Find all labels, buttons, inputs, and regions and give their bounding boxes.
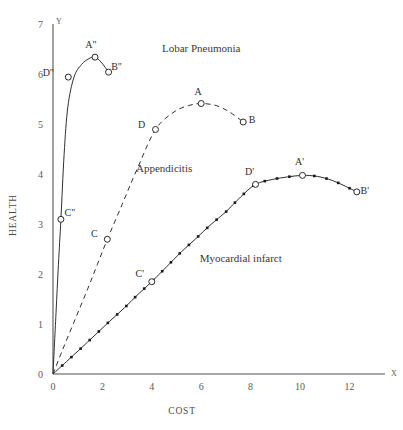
data-point-label: D bbox=[138, 119, 145, 130]
curve-tick-dot bbox=[243, 193, 246, 196]
curve-tick-dot bbox=[170, 261, 173, 264]
data-point-label: B' bbox=[361, 185, 370, 196]
x-tick-label: 12 bbox=[344, 381, 354, 392]
data-point-marker bbox=[104, 236, 110, 242]
series-label-myocardial-infarct: Myocardial infarct bbox=[200, 252, 282, 264]
y-axis-title: HEALTH bbox=[8, 194, 18, 236]
y-tick-label: 4 bbox=[38, 169, 43, 180]
data-point-marker bbox=[153, 126, 159, 132]
data-point-markers bbox=[58, 54, 360, 367]
curve-tick-dot bbox=[325, 177, 328, 180]
data-point-label: C bbox=[91, 228, 98, 239]
curve-tick-dot bbox=[161, 270, 164, 273]
curve-tick-dot bbox=[348, 187, 351, 190]
data-point-label: D" bbox=[43, 67, 54, 78]
curve-tick-dot bbox=[70, 356, 73, 359]
data-point-label: A" bbox=[85, 39, 96, 50]
curve-tick-dot bbox=[313, 175, 316, 178]
x-tick-label: 10 bbox=[295, 381, 305, 392]
curve-tick-dot bbox=[337, 182, 340, 185]
x-axis-cap-label: X bbox=[391, 369, 397, 378]
data-point-label: A' bbox=[295, 156, 304, 167]
curve-tick-dot bbox=[234, 201, 237, 204]
curve-tick-dot bbox=[225, 210, 228, 213]
data-point-marker bbox=[198, 101, 204, 107]
health-cost-plot: 02468101201234567XYCOSTHEALTH C"D"A"B"Lo… bbox=[0, 0, 403, 430]
y-tick-label: 0 bbox=[38, 369, 43, 380]
y-tick-label: 5 bbox=[38, 119, 43, 130]
curve-tick-dot bbox=[107, 322, 110, 325]
curve-tick-dot bbox=[125, 305, 128, 308]
data-point-label: D' bbox=[245, 166, 254, 177]
curve-appendicitis bbox=[53, 104, 243, 374]
curve-tick-dot bbox=[143, 287, 146, 290]
data-point-marker bbox=[253, 181, 259, 187]
curve-tick-dot bbox=[79, 347, 82, 350]
curve-lobar-pneumonia bbox=[53, 57, 109, 374]
x-tick-label: 0 bbox=[51, 381, 56, 392]
data-point-label: C' bbox=[136, 268, 145, 279]
curve-tick-dot bbox=[215, 218, 218, 221]
x-tick-label: 6 bbox=[199, 381, 204, 392]
curves bbox=[53, 57, 357, 374]
data-point-marker bbox=[58, 216, 64, 222]
data-point-marker bbox=[299, 172, 305, 178]
series-label-appendicitis: Appendicitis bbox=[136, 162, 192, 174]
series-label-lobar-pneumonia: Lobar Pneumonia bbox=[162, 42, 241, 54]
data-point-marker bbox=[240, 119, 246, 125]
curve-tick-dot bbox=[178, 252, 181, 255]
curve-tick-dot bbox=[88, 339, 91, 342]
data-point-marker bbox=[149, 279, 155, 285]
chart-container: 02468101201234567XYCOSTHEALTH C"D"A"B"Lo… bbox=[0, 0, 403, 430]
curve-tick-dot bbox=[188, 244, 191, 247]
data-point-marker bbox=[354, 189, 360, 195]
x-tick-label: 2 bbox=[100, 381, 105, 392]
data-point-marker bbox=[92, 54, 98, 60]
y-axis-cap-label: Y bbox=[56, 17, 62, 26]
y-tick-label: 7 bbox=[38, 19, 43, 30]
curve-tick-dot bbox=[98, 330, 101, 333]
curve-tick-dot bbox=[116, 313, 119, 316]
curve-tick-dot bbox=[134, 296, 137, 299]
y-tick-label: 3 bbox=[38, 219, 43, 230]
curve-tick-dot bbox=[264, 180, 267, 183]
data-point-label: B" bbox=[111, 61, 122, 72]
curve-tick-dot bbox=[61, 364, 64, 367]
y-tick-label: 1 bbox=[38, 319, 43, 330]
data-point-label: C" bbox=[65, 207, 76, 218]
curve-tick-dot bbox=[206, 227, 209, 230]
curve-myocardial-infarct bbox=[53, 175, 357, 374]
curve-tick-dot bbox=[276, 177, 279, 180]
data-point-label: A bbox=[195, 86, 203, 97]
x-tick-label: 8 bbox=[248, 381, 253, 392]
data-point-label: B bbox=[249, 114, 256, 125]
y-tick-label: 2 bbox=[38, 269, 43, 280]
x-tick-label: 4 bbox=[149, 381, 154, 392]
curve-tick-dot bbox=[197, 235, 200, 238]
text-labels: C"D"A"B"Lobar PneumoniaCDABAppendicitisC… bbox=[43, 39, 370, 279]
x-axis-title: COST bbox=[168, 406, 195, 416]
curve-tick-dot bbox=[288, 175, 291, 178]
data-point-marker bbox=[65, 74, 71, 80]
